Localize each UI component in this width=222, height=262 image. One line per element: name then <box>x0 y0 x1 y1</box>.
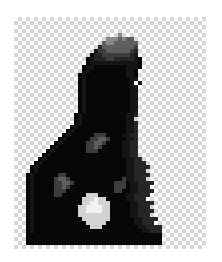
hooded-figure-pixel-art <box>14 17 206 249</box>
image-title: Pixelated dark figure silhouette <box>0 0 1 1</box>
figure-layer <box>14 17 206 249</box>
image-viewer: Pixelated dark figure silhouette <box>0 0 222 262</box>
image-canvas-area <box>14 17 206 249</box>
